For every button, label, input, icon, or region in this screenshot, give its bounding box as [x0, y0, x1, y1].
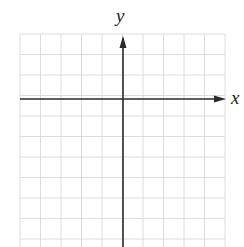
axes: [20, 36, 226, 247]
coordinate-plane: y x: [0, 0, 244, 247]
grid-canvas: [0, 0, 244, 247]
y-axis-arrow-icon: [120, 36, 127, 48]
x-axis-label: x: [231, 88, 239, 107]
y-axis-label: y: [116, 6, 124, 25]
x-axis-arrow-icon: [214, 96, 226, 103]
